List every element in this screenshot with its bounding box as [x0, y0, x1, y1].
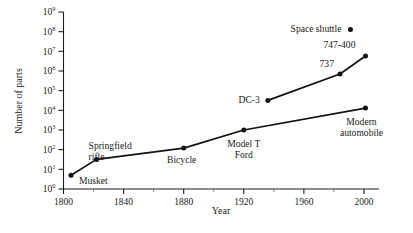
y-tick-label: 105	[43, 84, 56, 96]
series-spacecraft	[348, 27, 353, 32]
data-point-label: 737	[320, 58, 335, 69]
x-axis-ticks	[64, 189, 364, 194]
data-point-marker	[241, 128, 246, 133]
x-axis-title: Year	[212, 205, 231, 216]
x-tick-label: 2000	[354, 197, 373, 207]
x-tick-label: 1880	[174, 197, 193, 207]
y-tick-label: 100	[43, 182, 56, 194]
x-axis-group: 180018401880192019602000 Year	[54, 189, 379, 216]
y-tick-label: 106	[43, 64, 56, 76]
data-point-label: DC-3	[238, 94, 260, 105]
data-point-marker	[265, 98, 270, 103]
y-axis-tick-labels: 100101102103104105106107108109	[43, 5, 57, 194]
data-point-label: Musket	[79, 175, 108, 186]
data-point-marker	[69, 173, 74, 178]
data-point-label: 747-400	[323, 39, 355, 50]
data-point-label: Space shuttle	[291, 23, 342, 34]
series-aircraft	[265, 53, 368, 102]
data-point-labels-layer: MusketSpringfieldrifleBicycleModel TFord…	[79, 23, 383, 186]
y-tick-label: 109	[43, 5, 56, 17]
x-tick-label: 1840	[114, 197, 133, 207]
x-tick-label: 1960	[294, 197, 313, 207]
parts-vs-year-log-chart: 100101102103104105106107108109 Number of…	[0, 0, 413, 233]
data-point-marker	[363, 53, 368, 58]
chart-container: 100101102103104105106107108109 Number of…	[0, 0, 413, 233]
y-axis-ticks	[59, 12, 64, 189]
y-tick-label: 103	[43, 123, 56, 135]
y-axis-title: Number of parts	[13, 68, 24, 134]
data-point-label: Springfieldrifle	[89, 140, 132, 162]
y-tick-label: 101	[43, 163, 56, 175]
y-axis-group: 100101102103104105106107108109 Number of…	[13, 5, 64, 194]
data-point-marker	[363, 106, 368, 111]
data-point-label: Bicycle	[167, 154, 196, 165]
y-tick-label: 108	[43, 25, 56, 37]
y-tick-label: 102	[43, 143, 56, 155]
x-tick-label: 1800	[54, 197, 73, 207]
series-line	[268, 56, 366, 100]
data-point-label: Model TFord	[227, 138, 260, 160]
x-tick-label: 1920	[234, 197, 253, 207]
y-tick-label: 104	[43, 104, 57, 116]
data-point-label: Modernautomobile	[340, 116, 383, 138]
data-point-marker	[348, 27, 353, 32]
data-point-marker	[181, 146, 186, 151]
y-tick-label: 107	[43, 45, 56, 57]
data-point-marker	[337, 72, 342, 77]
